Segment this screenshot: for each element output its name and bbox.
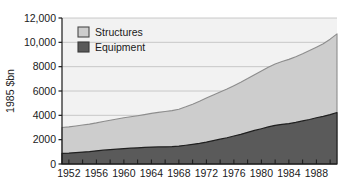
svg-text:0: 0	[50, 158, 56, 170]
svg-text:1952: 1952	[57, 167, 81, 179]
legend-swatch-structures	[78, 27, 89, 37]
svg-text:12,000: 12,000	[24, 12, 56, 24]
svg-text:1980: 1980	[250, 167, 274, 179]
chart-canvas: 0200040006000800010,00012,000 1952195619…	[0, 0, 345, 193]
svg-text:6000: 6000	[33, 85, 57, 97]
svg-text:1968: 1968	[167, 167, 191, 179]
svg-text:10,000: 10,000	[24, 36, 56, 48]
svg-text:4000: 4000	[33, 109, 57, 121]
svg-text:1972: 1972	[195, 167, 219, 179]
legend-label-structures: Structures	[95, 26, 143, 38]
svg-text:1960: 1960	[112, 167, 136, 179]
svg-text:8000: 8000	[33, 60, 57, 72]
x-axis-tick-labels: 1952195619601964196819721976198019841988	[57, 167, 328, 179]
svg-text:1984: 1984	[277, 167, 301, 179]
svg-text:1964: 1964	[140, 167, 164, 179]
legend-label-equipment: Equipment	[95, 41, 145, 53]
legend-swatch-equipment	[78, 42, 89, 52]
svg-text:1956: 1956	[85, 167, 109, 179]
y-axis-tick-labels: 0200040006000800010,00012,000	[24, 12, 56, 170]
svg-text:2000: 2000	[33, 133, 57, 145]
svg-text:1988: 1988	[305, 167, 329, 179]
y-axis-title: 1985 $bn	[4, 69, 16, 113]
svg-text:1976: 1976	[222, 167, 246, 179]
area-chart: 0200040006000800010,00012,000 1952195619…	[0, 0, 345, 193]
